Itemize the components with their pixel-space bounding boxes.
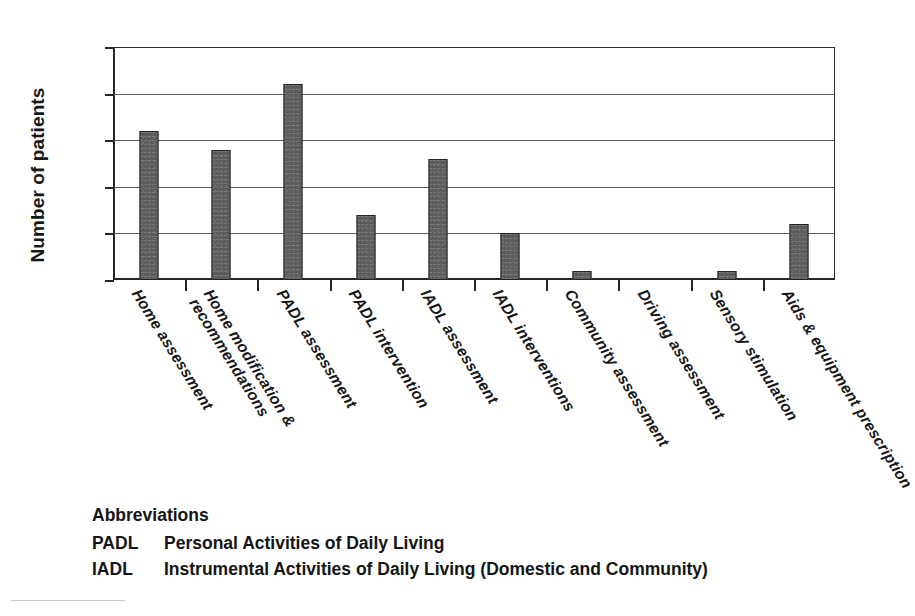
- bar-slot: [185, 47, 257, 280]
- bar[interactable]: [212, 150, 231, 280]
- x-axis-labels: Home assessmentHome modification &recomm…: [113, 282, 853, 532]
- bar[interactable]: [140, 131, 159, 280]
- bar-slot: [474, 47, 546, 280]
- bar[interactable]: [573, 271, 592, 280]
- x-axis-label-line: IADL interventions: [490, 286, 579, 415]
- bar-slot: [618, 47, 690, 280]
- x-axis-label-line: PADL assessment: [273, 286, 360, 411]
- abbreviation-entry-padl: PADL Personal Activities of Daily Living: [92, 530, 708, 557]
- bar-slot: [546, 47, 618, 280]
- bar[interactable]: [356, 215, 375, 280]
- bar-slot: [402, 47, 474, 280]
- bars-layer: [113, 47, 835, 280]
- abbreviation-entry-iadl: IADL Instrumental Activities of Daily Li…: [92, 556, 708, 583]
- bar-slot: [257, 47, 329, 280]
- bar[interactable]: [428, 159, 447, 280]
- x-axis-label-line: Aids & equipment prescription: [778, 286, 915, 491]
- bar[interactable]: [501, 233, 520, 280]
- abbreviation-definition: Instrumental Activities of Daily Living …: [164, 556, 708, 583]
- bar-slot: [763, 47, 835, 280]
- x-axis-label-line: PADL intervention: [345, 286, 432, 411]
- bar-slot: [113, 47, 185, 280]
- x-axis-label-line: IADL assessment: [417, 286, 501, 407]
- bar[interactable]: [284, 84, 303, 280]
- abbreviation-definition: Personal Activities of Daily Living: [164, 530, 444, 557]
- plot-area: 2520151050: [113, 47, 835, 280]
- abbreviations-heading: Abbreviations: [92, 502, 708, 529]
- x-axis-label: IADL interventions: [489, 286, 579, 415]
- abbreviation-key: PADL: [92, 530, 164, 557]
- bar-slot: [330, 47, 402, 280]
- x-axis-label: IADL assessment: [417, 286, 502, 407]
- bar[interactable]: [789, 224, 808, 280]
- bar-slot: [691, 47, 763, 280]
- y-axis-title: Number of patients: [27, 75, 49, 275]
- scan-artifact-rule: [11, 600, 125, 601]
- x-axis-label: Aids & equipment prescription: [778, 286, 915, 491]
- abbreviation-key: IADL: [92, 556, 164, 583]
- x-axis-label-line: recommendations: [186, 295, 285, 439]
- bar[interactable]: [717, 271, 736, 280]
- x-axis-label: PADL intervention: [345, 286, 432, 412]
- abbreviations-block: Abbreviations PADL Personal Activities o…: [92, 502, 708, 583]
- x-axis-label: PADL assessment: [273, 286, 360, 411]
